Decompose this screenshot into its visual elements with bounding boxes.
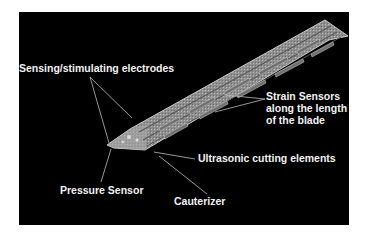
strain-sensors-label: Strain Sensors along the length of the b… <box>266 90 349 126</box>
electrodes-label: Sensing/stimulating electrodes <box>19 62 174 74</box>
blade-diagram: Sensing/stimulating electrodes Strain Se… <box>19 12 349 225</box>
ultrasonic-label: Ultrasonic cutting elements <box>198 152 336 164</box>
blade <box>107 20 348 150</box>
ultrasonic-pointer <box>154 152 195 159</box>
electrodes-pointer-1 <box>90 77 109 143</box>
pressure-pointer <box>101 149 111 182</box>
cauterizer-label: Cauterizer <box>174 195 225 207</box>
pressure-sensor-label: Pressure Sensor <box>60 184 143 196</box>
